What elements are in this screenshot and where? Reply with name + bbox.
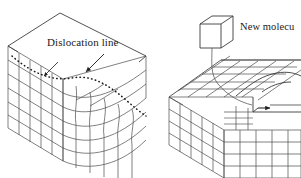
left-block-front-face-grid [63, 56, 146, 178]
right-block [169, 16, 301, 178]
dislocation-line-dashed [12, 56, 146, 116]
right-block-step-ledge [236, 72, 301, 112]
right-block-left-face-grid [169, 97, 224, 178]
crystal-dislocation-figure: Dislocation line New molecu [0, 0, 301, 178]
dislocation-leader-arrow [86, 54, 104, 72]
dislocation-line-label: Dislocation line [47, 36, 119, 48]
right-block-front-face-grid [224, 130, 301, 178]
new-molecule-label: New molecu [240, 21, 294, 32]
left-block-left-face-grid [8, 46, 63, 161]
right-block-upper-front-grid [224, 106, 253, 130]
new-molecule-cube [200, 16, 233, 48]
right-block-top-face-grid [169, 56, 301, 105]
left-block-distortion [76, 84, 118, 106]
